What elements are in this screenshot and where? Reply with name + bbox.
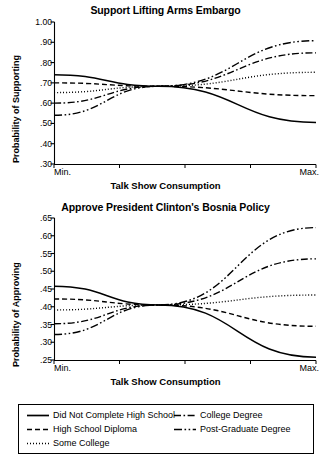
y-axis-tick-label: .30 — [40, 337, 52, 347]
x-axis-tick-min-top: Min. — [54, 167, 71, 177]
y-axis-tick-label: .50 — [40, 118, 52, 128]
legend-item-label: Some College — [53, 438, 110, 448]
figure: Support Lifting Arms Embargo Probability… — [0, 0, 331, 462]
y-axis-tick-label: .45 — [40, 284, 52, 294]
y-axis-ticks-top: 1.00.90.80.70.60.50.40.30 — [26, 0, 52, 196]
legend-line-sample-icon — [27, 425, 49, 434]
plot-area-top — [54, 22, 318, 166]
legend: Did Not Complete High SchoolHigh School … — [18, 404, 314, 454]
y-axis-tick-label: .30 — [40, 159, 52, 169]
y-axis-tick-label: .65 — [40, 213, 52, 223]
legend-item-4: Post-Graduate Degree — [174, 424, 291, 434]
plot-area-bottom — [54, 218, 318, 362]
y-axis-label-bottom: Probability of Approving — [11, 262, 21, 367]
x-axis-tick-max-top: Max. — [299, 167, 319, 177]
y-axis-tick-label: .60 — [40, 231, 52, 241]
series-line-4 — [54, 228, 316, 335]
series-line-0 — [54, 75, 316, 123]
legend-item-label: High School Diploma — [53, 424, 137, 434]
y-axis-tick-label: .70 — [40, 78, 52, 88]
y-axis-tick-label: .25 — [40, 355, 52, 365]
x-axis-tick-max-bottom: Max. — [299, 363, 319, 373]
y-axis-tick-label: 1.00 — [35, 17, 52, 27]
legend-item-3: College Degree — [174, 410, 263, 420]
legend-item-label: Post-Graduate Degree — [200, 424, 291, 434]
y-axis-tick-label: .80 — [40, 58, 52, 68]
series-line-2 — [54, 72, 316, 92]
chart-panel-bottom: Approve President Clinton's Bosnia Polic… — [0, 196, 331, 390]
y-axis-tick-label: .60 — [40, 98, 52, 108]
legend-item-2: Some College — [27, 438, 110, 448]
chart-panel-top: Support Lifting Arms Embargo Probability… — [0, 0, 331, 196]
y-axis-ticks-bottom: .65.60.55.50.45.40.35.30.25 — [26, 196, 52, 390]
legend-item-1: High School Diploma — [27, 424, 137, 434]
legend-line-sample-icon — [27, 411, 49, 420]
series-line-0 — [54, 286, 316, 357]
y-axis-tick-label: .40 — [40, 139, 52, 149]
y-axis-tick-label: .55 — [40, 249, 52, 259]
x-axis-label-top: Talk Show Consumption — [0, 180, 331, 191]
legend-item-label: College Degree — [200, 410, 263, 420]
x-axis-label-bottom: Talk Show Consumption — [0, 376, 331, 387]
y-axis-tick-label: .90 — [40, 37, 52, 47]
x-axis-tick-min-bottom: Min. — [54, 363, 71, 373]
legend-item-label: Did Not Complete High School — [53, 410, 175, 420]
legend-item-0: Did Not Complete High School — [27, 410, 175, 420]
legend-line-sample-icon — [174, 411, 196, 420]
y-axis-tick-label: .40 — [40, 302, 52, 312]
y-axis-label-top: Probability of Supporting — [11, 55, 21, 163]
y-axis-tick-label: .50 — [40, 266, 52, 276]
legend-line-sample-icon — [27, 439, 49, 448]
y-axis-tick-label: .35 — [40, 320, 52, 330]
legend-line-sample-icon — [174, 425, 196, 434]
